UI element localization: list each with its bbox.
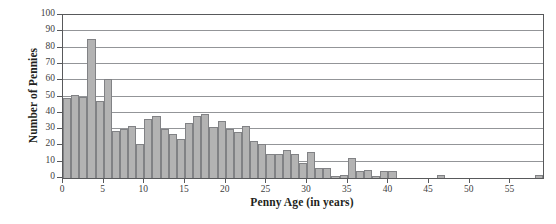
x-axis-tick-label: 10 (128, 185, 158, 195)
histogram-bar (356, 171, 364, 178)
x-axis-tick (347, 178, 348, 183)
histogram-bar (291, 154, 299, 178)
histogram-bar (193, 116, 201, 178)
histogram-bar (299, 163, 307, 178)
histogram-bar (331, 176, 339, 178)
histogram-bar (96, 101, 104, 178)
bars-container (63, 15, 543, 178)
y-axis-tick-label: 50 (29, 91, 55, 101)
histogram-bar (177, 139, 185, 178)
histogram-bar (315, 168, 323, 178)
x-axis-tick-label: 30 (291, 185, 321, 195)
x-axis-tick-label: 0 (47, 185, 77, 195)
histogram-bar (87, 39, 95, 178)
histogram-bar (242, 126, 250, 178)
x-axis-tick-label: 45 (413, 185, 443, 195)
histogram-bar (258, 144, 266, 178)
histogram-bar (388, 171, 396, 178)
y-axis-tick-label: 90 (29, 25, 55, 35)
x-axis-tick (469, 178, 470, 183)
histogram-bar (112, 131, 120, 178)
y-axis-tick-label: 60 (29, 74, 55, 84)
y-axis-tick (57, 161, 62, 162)
histogram-bar (266, 154, 274, 178)
histogram-bar (128, 126, 136, 178)
histogram-bar (71, 95, 79, 178)
histogram-bar (169, 134, 177, 178)
plot-area (62, 14, 544, 179)
x-axis-tick (265, 178, 266, 183)
y-axis-tick (57, 63, 62, 64)
histogram-bar (275, 154, 283, 178)
x-axis-tick (143, 178, 144, 183)
x-axis-tick-label: 25 (250, 185, 280, 195)
x-axis-title: Penny Age (in years) (62, 196, 542, 208)
histogram-bar (250, 141, 258, 178)
y-axis-tick-label: 40 (29, 107, 55, 117)
histogram-bar (323, 168, 331, 178)
y-axis-tick (57, 144, 62, 145)
histogram-figure: Number of Pennies Penny Age (in years) 0… (0, 0, 556, 224)
y-axis-tick (57, 96, 62, 97)
histogram-bar (144, 119, 152, 178)
histogram-bar (535, 175, 543, 178)
y-axis-tick (57, 112, 62, 113)
histogram-bar (234, 132, 242, 178)
histogram-bar (79, 97, 87, 179)
x-axis-tick (428, 178, 429, 183)
y-axis-tick-label: 30 (29, 123, 55, 133)
histogram-bar (120, 129, 128, 178)
histogram-bar (63, 98, 71, 178)
y-axis-tick (57, 79, 62, 80)
histogram-bar (104, 79, 112, 178)
x-axis-tick-label: 55 (494, 185, 524, 195)
x-axis-tick (387, 178, 388, 183)
y-axis-tick (57, 30, 62, 31)
y-axis-tick (57, 47, 62, 48)
histogram-bar (283, 150, 291, 178)
y-axis-tick-label: 10 (29, 156, 55, 166)
histogram-bar (372, 176, 380, 178)
x-axis-tick-label: 35 (332, 185, 362, 195)
y-axis-tick-label: 70 (29, 58, 55, 68)
y-axis-tick-label: 100 (29, 9, 55, 19)
y-axis-tick-label: 80 (29, 42, 55, 52)
histogram-bar (307, 152, 315, 178)
histogram-bar (136, 144, 144, 178)
histogram-bar (201, 114, 209, 178)
y-axis-tick-label: 20 (29, 139, 55, 149)
histogram-bar (437, 175, 445, 178)
histogram-bar (152, 116, 160, 178)
y-axis-tick (57, 14, 62, 15)
histogram-bar (209, 127, 217, 178)
x-axis-tick-label: 40 (372, 185, 402, 195)
x-axis-tick (306, 178, 307, 183)
x-axis-tick (225, 178, 226, 183)
histogram-bar (185, 123, 193, 178)
histogram-bar (364, 170, 372, 178)
x-axis-tick-label: 20 (210, 185, 240, 195)
x-axis-tick (103, 178, 104, 183)
x-axis-tick (509, 178, 510, 183)
y-axis-tick-label: 0 (29, 172, 55, 182)
x-axis-tick-label: 50 (454, 185, 484, 195)
x-axis-tick-label: 15 (169, 185, 199, 195)
histogram-bar (226, 129, 234, 178)
histogram-bar (348, 158, 356, 178)
x-axis-tick (184, 178, 185, 183)
y-axis-tick (57, 128, 62, 129)
histogram-bar (161, 129, 169, 178)
x-axis-tick (62, 178, 63, 183)
histogram-bar (218, 121, 226, 178)
x-axis-tick-label: 5 (88, 185, 118, 195)
